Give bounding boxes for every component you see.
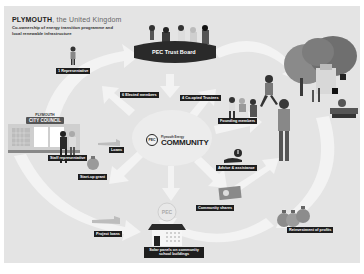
label-start-up-grant: Start-up grant [78, 174, 107, 180]
pec-badge: PEC [146, 134, 158, 146]
representative-figure [67, 46, 79, 66]
label-staff-representative: Staff representative [48, 155, 87, 161]
community-big-text: COMMUNITY [161, 140, 209, 145]
project-loans-pipe-icon [92, 216, 122, 228]
loans-pipe-icon [98, 139, 122, 147]
pec-community-logo: PEC Plymouth Energy COMMUNITY [146, 134, 209, 146]
community-people-figures [258, 74, 298, 174]
label-loans: Loans [109, 147, 124, 153]
trust-board-label: PEC Trust Board [152, 50, 196, 54]
page-title: PLYMOUTH, the United Kingdom [12, 16, 122, 23]
diagram-canvas: PLYMOUTH, the United Kingdom Co-ownershi… [4, 6, 360, 263]
money-bag-icon [86, 154, 100, 170]
city-name: PLYMOUTH [12, 16, 52, 23]
label-representative: 1 Representative [56, 68, 90, 74]
city-council-main: CITY COUNCIL [26, 117, 64, 124]
country-name: , the United Kingdom [52, 16, 121, 23]
label-advice-assistance: Advice & assistance [216, 165, 257, 171]
label-founding-members: Founding members [218, 118, 257, 124]
svg-text:PEC: PEC [162, 209, 173, 215]
trust-board-illustration [130, 24, 220, 66]
page-subtitle: Co-ownership of energy transition progra… [12, 25, 122, 36]
label-coopted-trustees: 4 Co-opted Trustees [180, 95, 221, 101]
label-elected-members: 6 Elected members [120, 92, 159, 98]
header: PLYMOUTH, the United Kingdom Co-ownershi… [12, 16, 122, 36]
label-community-shares: Community shares [196, 205, 234, 211]
share-certificate-icon [218, 186, 242, 200]
label-project-loans: Project loans [94, 231, 122, 237]
city-council-title: PLYMOUTH CITY COUNCIL [26, 113, 64, 124]
advice-hand-icon [224, 148, 244, 164]
solar-school-illustration: PEC [142, 198, 192, 248]
label-reinvestment-profits: Reinvestment of profits [287, 227, 333, 233]
label-solar-school: Solar panels on community school buildin… [144, 247, 204, 258]
desk-workers-illustration [326, 98, 360, 120]
